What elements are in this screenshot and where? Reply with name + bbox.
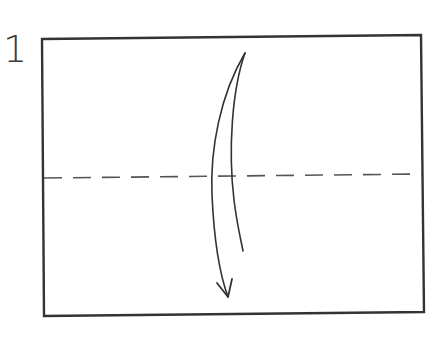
fold-diagram	[0, 0, 448, 344]
